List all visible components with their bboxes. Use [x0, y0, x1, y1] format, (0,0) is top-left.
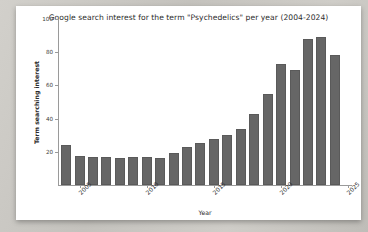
plot-area: 20406080100 — [58, 19, 351, 185]
y-axis-label: Term searching interest — [32, 19, 42, 185]
page-backdrop: Google search interest for the term "Psy… — [0, 0, 368, 232]
y-axis-tick-label: 100 — [42, 16, 53, 22]
bar — [101, 157, 111, 185]
y-axis-tick-label: 20 — [46, 149, 53, 155]
y-axis-tick-mark — [55, 85, 58, 86]
bar — [290, 70, 300, 185]
bar — [249, 114, 259, 185]
bar — [330, 55, 340, 185]
bar — [222, 135, 232, 185]
chart-figure: Google search interest for the term "Psy… — [16, 6, 361, 220]
bar — [75, 156, 85, 185]
y-axis-label-text: Term searching interest — [34, 60, 41, 143]
y-axis-tick-label: 60 — [46, 82, 53, 88]
y-axis-tick-mark — [55, 152, 58, 153]
x-axis-line — [58, 185, 352, 186]
y-axis-tick-label: 40 — [46, 116, 53, 122]
bar — [276, 64, 286, 185]
bar — [182, 147, 192, 185]
bar — [61, 145, 71, 185]
bar — [88, 157, 98, 185]
y-axis-tick-label: 80 — [46, 49, 53, 55]
bar — [115, 158, 125, 185]
y-axis-tick-mark — [55, 52, 58, 53]
bar — [209, 139, 219, 185]
bar — [195, 143, 205, 185]
bar — [142, 157, 152, 185]
y-axis-tick-mark — [55, 19, 58, 20]
bar — [236, 129, 246, 185]
y-axis-tick-mark — [55, 119, 58, 120]
bar — [303, 39, 313, 185]
bar — [316, 37, 326, 185]
bar — [169, 153, 179, 185]
bar — [128, 157, 138, 185]
bar — [155, 158, 165, 185]
bar — [263, 94, 273, 185]
x-axis-label: Year — [58, 209, 352, 216]
